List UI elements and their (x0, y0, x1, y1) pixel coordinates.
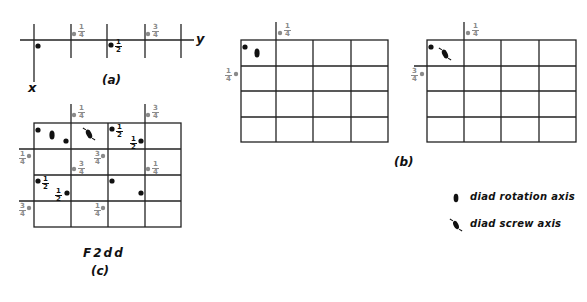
fraction-label: 14 (225, 68, 232, 83)
diad-screw-axis-icon (83, 125, 95, 142)
figure-b-left-grid (241, 22, 388, 142)
figure-a-caption: (a) (102, 73, 121, 87)
fraction-label: 34 (78, 161, 85, 176)
x-axis-label: x (28, 80, 36, 95)
fraction-label: 34 (94, 151, 101, 166)
fraction-label: 34 (152, 105, 159, 120)
fraction-label: 34 (152, 24, 159, 39)
fraction-label: 14 (152, 161, 159, 176)
diad-screw-axis-icon (439, 45, 451, 62)
y-axis-label: y (196, 31, 204, 46)
fraction-label: 12 (55, 188, 62, 203)
fraction-label: 14 (78, 105, 85, 120)
legend-diad-screw-axis-icon (450, 216, 462, 233)
figure-b-caption: (b) (394, 155, 414, 169)
fraction-label: 12 (115, 39, 122, 54)
figure-c-points (27, 113, 150, 210)
figure-c-caption: (c) (91, 264, 109, 278)
fraction-label: 34 (19, 203, 26, 218)
fraction-label: 14 (284, 23, 291, 38)
space-group-title: F2dd (83, 246, 125, 260)
diad-rotation-axis-icon (254, 49, 259, 58)
fraction-label: 14 (472, 23, 479, 38)
legend-diad-rotation-axis-icon (454, 194, 459, 203)
figure-b-right-grid (414, 22, 576, 142)
fraction-label: 12 (130, 136, 137, 151)
fraction-label: 14 (19, 151, 26, 166)
diad-rotation-axis-icon (49, 131, 54, 140)
fraction-label: 34 (411, 68, 418, 83)
fraction-label: 12 (42, 176, 49, 191)
legend-label-screw: diad screw axis (470, 218, 561, 229)
fraction-label: 12 (116, 124, 123, 139)
fraction-label: 14 (78, 24, 85, 39)
legend-label-rotation: diad rotation axis (470, 191, 575, 202)
fraction-label: 14 (94, 203, 101, 218)
